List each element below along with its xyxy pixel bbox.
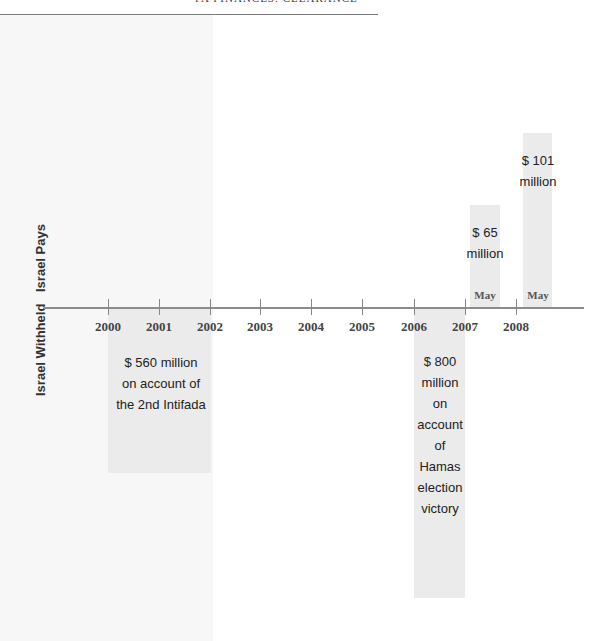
- bar-label-line: election: [410, 477, 470, 498]
- bar-label-line: $ 560 million: [112, 352, 210, 373]
- tick-2008: [516, 299, 517, 315]
- tick-2002: [210, 299, 211, 315]
- month-label-2008: May: [523, 289, 553, 301]
- tick-2006: [414, 299, 415, 315]
- bar-label-line: on: [410, 393, 470, 414]
- header-rule: [0, 14, 378, 15]
- year-label: 2006: [389, 319, 439, 335]
- bar-label-may-2008: $ 101 million: [513, 150, 563, 192]
- bar-label-line: million: [513, 171, 563, 192]
- tick-2003: [260, 299, 261, 315]
- tick-2005: [362, 299, 363, 315]
- year-label: 2002: [185, 319, 235, 335]
- time-axis: [44, 307, 584, 309]
- month-label-2007: May: [470, 289, 500, 301]
- bar-label-line: $ 101: [513, 150, 563, 171]
- israel-pays-label: Israel Pays: [33, 224, 48, 292]
- year-label: 2000: [83, 319, 133, 335]
- year-label: 2007: [440, 319, 490, 335]
- tick-2004: [311, 299, 312, 315]
- bar-label-2006-2007: $ 800 million on account of Hamas electi…: [410, 351, 470, 519]
- year-label: 2005: [337, 319, 387, 335]
- bar-label-line: $ 800: [410, 351, 470, 372]
- bar-label-2000-2002: $ 560 million on account of the 2nd Inti…: [112, 352, 210, 415]
- bar-label-line: victory: [410, 498, 470, 519]
- bar-label-line: account: [410, 414, 470, 435]
- bar-label-line: $ 65: [460, 222, 510, 243]
- year-label: 2001: [134, 319, 184, 335]
- tick-2007: [465, 299, 466, 315]
- bar-label-line: million: [460, 243, 510, 264]
- israel-withheld-label: Israel Withheld: [33, 304, 48, 396]
- bar-label-line: million: [410, 372, 470, 393]
- header-title: PA FINANCES: CLEARANCE: [195, 0, 305, 6]
- bar-label-line: on account of: [112, 373, 210, 394]
- year-label: 2003: [235, 319, 285, 335]
- year-label: 2004: [286, 319, 336, 335]
- tick-2000: [108, 299, 109, 315]
- bar-label-may-2007: $ 65 million: [460, 222, 510, 264]
- bar-label-line: of: [410, 435, 470, 456]
- year-label: 2008: [491, 319, 541, 335]
- bar-label-line: the 2nd Intifada: [112, 394, 210, 415]
- tick-2001: [159, 299, 160, 315]
- bar-label-line: Hamas: [410, 456, 470, 477]
